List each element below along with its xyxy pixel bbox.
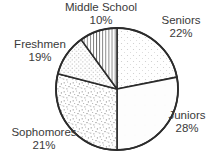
pie-label-juniors-name: Juniors bbox=[157, 109, 217, 122]
pie-label-juniors-percent: 28% bbox=[157, 122, 217, 135]
pie-label-middle-school-percent: 10% bbox=[55, 14, 147, 27]
pie-label-seniors-name: Seniors bbox=[150, 14, 212, 27]
pie-label-middle-school-name: Middle School bbox=[55, 1, 147, 14]
pie-label-seniors-percent: 22% bbox=[150, 27, 212, 40]
pie-chart-figure: Middle School 10% Seniors 22% Juniors 28… bbox=[0, 0, 220, 164]
pie-label-sophomores-percent: 21% bbox=[1, 139, 87, 152]
pie-label-seniors: Seniors 22% bbox=[150, 14, 212, 39]
pie-label-middle-school: Middle School 10% bbox=[55, 1, 147, 26]
pie-label-freshmen: Freshmen 19% bbox=[2, 38, 78, 63]
pie-label-freshmen-percent: 19% bbox=[2, 51, 78, 64]
pie-label-sophomores: Sophomores 21% bbox=[1, 126, 87, 151]
pie-label-sophomores-name: Sophomores bbox=[1, 126, 87, 139]
pie-label-juniors: Juniors 28% bbox=[157, 109, 217, 134]
pie-label-freshmen-name: Freshmen bbox=[2, 38, 78, 51]
